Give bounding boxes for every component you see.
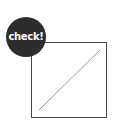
placeholder-box [31,42,107,118]
diagonal-line-icon [32,43,106,117]
check-badge-label: check! [8,32,43,42]
check-badge: check! [6,17,46,57]
